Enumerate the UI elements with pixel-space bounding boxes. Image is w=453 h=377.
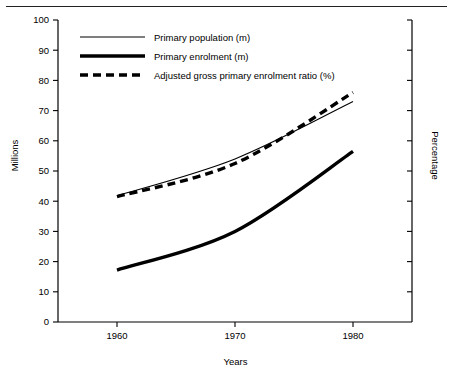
y-tick-label: 40 — [38, 196, 49, 207]
chart-legend: Primary population (m)Primary enrolment … — [80, 32, 335, 81]
y-tick-label: 70 — [38, 105, 49, 116]
axis-frame — [58, 20, 412, 322]
x-tick-label: 1960 — [106, 330, 127, 341]
y-tick-label: 20 — [38, 256, 49, 267]
x-axis-ticks: 196019701980 — [106, 322, 363, 341]
legend-label: Adjusted gross primary enrolment ratio (… — [154, 70, 335, 81]
y-tick-label: 80 — [38, 75, 49, 86]
y-tick-label: 90 — [38, 45, 49, 56]
y-axis-ticks-left: 0102030405060708090100 — [33, 14, 58, 327]
series-line — [117, 151, 353, 270]
y-axis-ticks-right — [407, 20, 412, 292]
x-tick-label: 1980 — [342, 330, 363, 341]
y-axis-title-right: Percentage — [430, 123, 441, 189]
y-tick-label: 60 — [38, 135, 49, 146]
legend-label: Primary enrolment (m) — [154, 51, 249, 62]
y-tick-label: 10 — [38, 286, 49, 297]
y-tick-label: 0 — [44, 316, 49, 327]
y-tick-label: 30 — [38, 226, 49, 237]
chart-figure: 0102030405060708090100 196019701980 Prim… — [0, 0, 453, 377]
y-tick-label: 50 — [38, 165, 49, 176]
y-tick-label: 100 — [33, 14, 49, 25]
x-tick-label: 1970 — [224, 330, 245, 341]
x-axis-title: Years — [58, 356, 413, 367]
legend-label: Primary population (m) — [154, 32, 250, 43]
series-line — [117, 102, 353, 196]
y-axis-title-left: Millions — [9, 126, 20, 186]
line-chart-plot: 0102030405060708090100 196019701980 Prim… — [0, 0, 453, 377]
data-series-layer — [117, 92, 353, 270]
series-line — [117, 92, 353, 196]
